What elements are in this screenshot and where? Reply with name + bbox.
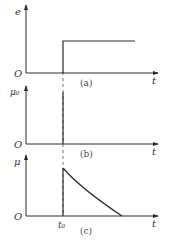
panel-c-caption: (c) — [80, 226, 92, 236]
panel-b-caption: (b) — [80, 149, 93, 159]
panel-a-caption: (a) — [80, 78, 92, 88]
panel-b-origin-label: O — [14, 139, 22, 150]
panel-b-y-label: μ₀ — [10, 87, 20, 97]
diagram-canvas: e O t (a) μ₀ O t (b) μ O t₀ t (c) — [0, 0, 170, 249]
panel-c-decay-curve — [63, 168, 122, 216]
panel-a — [26, 5, 158, 73]
panel-c-origin-label: O — [14, 211, 22, 222]
panel-c-y-label: μ — [14, 156, 21, 167]
panel-b-x-label: t — [152, 146, 157, 157]
panel-a-y-label: e — [15, 6, 21, 17]
panel-a-origin-label: O — [14, 68, 22, 79]
panel-a-step-curve — [63, 41, 135, 73]
panel-c-t0-label: t₀ — [58, 220, 66, 230]
panel-c — [26, 155, 158, 216]
panel-b — [26, 86, 158, 144]
panel-a-x-label: t — [152, 75, 157, 86]
panel-c-x-label: t — [152, 218, 157, 229]
